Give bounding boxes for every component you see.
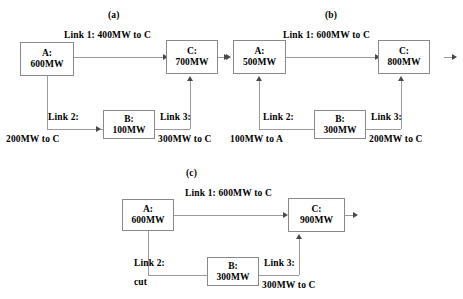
panel-c-link3-wire-vertical [299,239,300,275]
panel-b-link1-wire [286,57,376,58]
panel-c-link2-flow: cut [134,277,147,288]
panel-c-caption: (c) [186,168,197,178]
panel-c-node-b-line2: 300MW [216,272,249,283]
panel-b-node-b-line2: 300MW [323,125,356,136]
panel-a-node-b-line1: B: [124,114,134,125]
panel-c-node-c-line2: 900MW [300,215,333,226]
panel-c-node-b[interactable]: B: 300MW [207,257,259,286]
panel-a-node-a-line1: A: [42,48,52,59]
panel-b-node-b-line1: B: [335,114,345,125]
panel-a-caption: (a) [108,10,120,20]
panel-a-link3-arrowhead [187,76,193,81]
panel-b-link2-wire-vertical [259,81,260,129]
panel-c-node-b-line1: B: [228,261,238,272]
panel-c-link2-wire-horizontal [148,275,207,276]
panel-b-link3-name: Link 3: [371,112,402,123]
panel-c-c-export-arrowhead [353,212,358,218]
panel-a-node-b-line2: 100MW [112,125,145,136]
panel-a-node-b[interactable]: B: 100MW [103,110,155,139]
panel-a-link2-arrowhead [96,126,101,132]
panel-a-node-c-line1: C: [187,46,197,57]
panel-a-link3-flow: 300MW to C [158,134,212,145]
panel-b-node-c[interactable]: C: 800MW [378,40,430,74]
panel-b-link2-flow: 100MW to A [230,134,283,145]
panel-c-link1-label: Link 1: 600MW to C [185,188,272,199]
panel-b-link3-arrowhead [398,76,404,81]
panel-a-link2-name: Link 2: [48,112,79,123]
panel-b-link3-flow: 200MW to C [369,134,423,145]
panel-c-link3-flow: 300MW to C [262,280,316,291]
panel-b-link2-wire-horizontal [259,129,314,130]
panel-c-node-c[interactable]: C: 900MW [288,198,345,232]
panel-b-link2-arrowhead [256,76,262,81]
panel-a-link1-label: Link 1: 400MW to C [64,30,151,41]
panel-b-node-c-line1: C: [399,46,409,57]
panel-b-link1-label: Link 1: 600MW to C [283,30,370,41]
panel-b-caption: (b) [325,10,337,20]
panel-b-c-export-arrowhead [452,54,457,60]
panel-c-node-a-line1: A: [143,204,153,215]
panel-b-a-import-arrowhead [224,54,229,60]
panel-a-link1-wire [74,57,164,58]
panel-a-link2-wire-horizontal [47,129,103,130]
panel-c-link3-name: Link 3: [264,258,295,269]
panel-c-node-a[interactable]: A: 600MW [122,199,174,231]
panel-c-link3-wire-horizontal [259,275,299,276]
diagram-canvas: (a) Link 1: 400MW to C Link 2: 200MW to … [0,0,463,299]
panel-b-node-a-line2: 500MW [243,57,276,68]
panel-a-node-a-line2: 600MW [30,59,63,70]
panel-b-node-b[interactable]: B: 300MW [314,110,366,139]
panel-a-node-c[interactable]: C: 700MW [166,40,218,74]
panel-c-node-a-line2: 600MW [131,215,164,226]
panel-b-link3-wire-horizontal [366,129,401,130]
panel-a-node-a[interactable]: A: 600MW [20,42,74,76]
panel-a-link3-name: Link 3: [160,112,191,123]
panel-a-node-c-line2: 700MW [175,57,208,68]
panel-c-link1-wire [172,215,284,216]
panel-c-link3-arrowhead [296,234,302,239]
panel-b-node-c-line2: 800MW [387,57,420,68]
panel-a-link3-wire-horizontal [155,129,190,130]
panel-c-node-c-line1: C: [311,204,321,215]
panel-b-node-a[interactable]: A: 500MW [233,40,286,74]
panel-c-link2-name: Link 2: [134,258,165,269]
panel-b-node-a-line1: A: [254,46,264,57]
panel-b-link2-name: Link 2: [263,112,294,123]
panel-a-link2-flow: 200MW to C [6,134,60,145]
